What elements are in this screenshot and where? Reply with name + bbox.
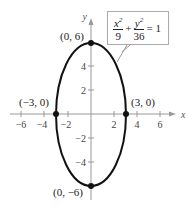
equation-callout: x2 9 + y2 36 = 1: [107, 11, 169, 45]
point-right: [123, 111, 129, 117]
eq-denominator-9: 9: [115, 30, 121, 42]
x-tick-label: −2: [61, 119, 72, 130]
eq-equals-one: = 1: [147, 22, 161, 34]
y-tick-label: 4: [81, 61, 86, 72]
x-axis-label: x: [180, 109, 186, 120]
y-tick-label: 2: [81, 85, 86, 96]
point-bottom: [88, 183, 94, 189]
x-tick-label: 6: [158, 119, 163, 130]
x-tick-label: −4: [37, 119, 48, 130]
x-tick-label: −6: [16, 119, 27, 130]
eq-denominator-36: 36: [134, 30, 145, 42]
point-top: [88, 40, 94, 46]
point-label-top: (0, 6): [60, 30, 84, 43]
x-tick-label: 2: [112, 119, 117, 130]
x-tick-label: 4: [135, 119, 140, 130]
point-left: [53, 111, 59, 117]
point-label-bottom: (0, −6): [53, 186, 83, 199]
eq-plus: +: [125, 22, 131, 34]
callout-pointer: [117, 45, 127, 62]
x-axis-arrow-icon: [169, 112, 176, 117]
point-label-left: (−3, 0): [19, 96, 49, 109]
y-axis-arrow-icon: [89, 18, 94, 25]
y-tick-label: −4: [75, 157, 86, 168]
point-label-right: (3, 0): [131, 96, 155, 109]
y-tick-label: −2: [75, 133, 86, 144]
y-axis-label: y: [82, 11, 88, 22]
